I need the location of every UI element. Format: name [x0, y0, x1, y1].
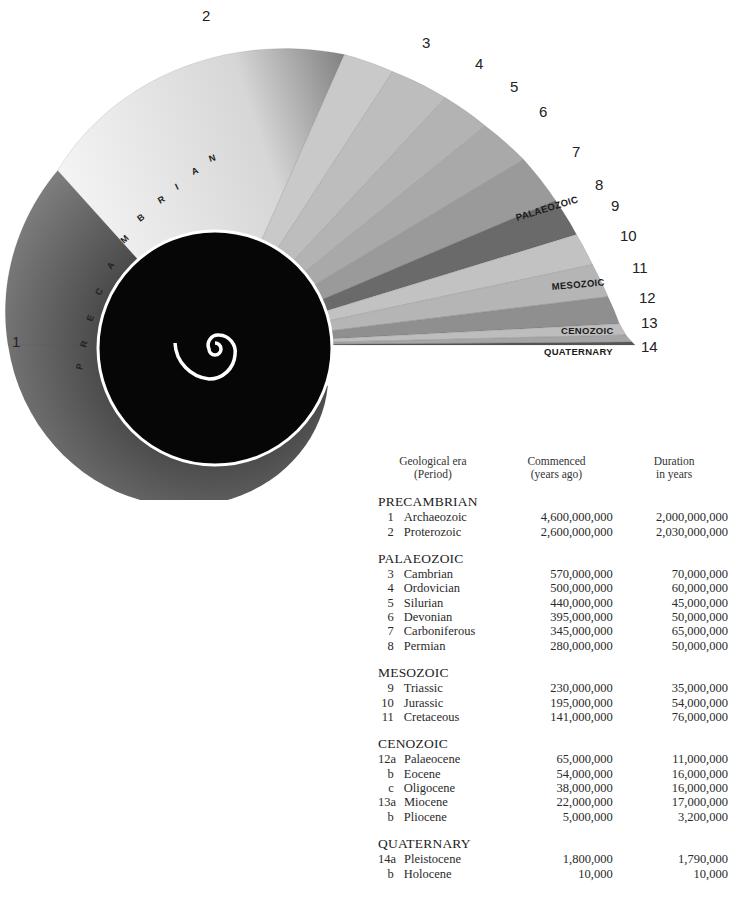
header-commenced: Commenced: [493, 455, 620, 468]
spiral-core: [98, 231, 332, 465]
period-index: 1: [378, 510, 404, 524]
period-number-12: 12: [639, 289, 656, 306]
table-row: 14aPleistocene1,800,0001,790,000: [378, 852, 728, 866]
table-row: 9Triassic230,000,00035,000,000: [378, 681, 728, 695]
table-row: 6Devonian395,000,00050,000,000: [378, 610, 728, 624]
period-name: Proterozoic: [404, 525, 512, 539]
period-name: Devonian: [404, 610, 512, 624]
commenced-value: 395,000,000: [512, 610, 613, 624]
commenced-value: 2,600,000,000: [512, 525, 613, 539]
era-heading: QUATERNARY: [378, 837, 728, 851]
period-name: Miocene: [404, 795, 512, 809]
duration-value: 1,790,000: [613, 852, 728, 866]
period-index: 10: [378, 696, 404, 710]
duration-value: 60,000,000: [613, 581, 728, 595]
period-name: Carboniferous: [404, 624, 512, 638]
duration-value: 11,000,000: [613, 752, 728, 766]
period-index: 8: [378, 639, 404, 653]
table-row: 3Cambrian570,000,00070,000,000: [378, 567, 728, 581]
table-row: 7Carboniferous345,000,00065,000,000: [378, 624, 728, 638]
era-group: MESOZOIC9Triassic230,000,00035,000,00010…: [378, 666, 728, 724]
header-era: Geological era: [378, 455, 488, 468]
duration-value: 76,000,000: [613, 710, 728, 724]
commenced-value: 38,000,000: [512, 781, 613, 795]
duration-value: 45,000,000: [613, 596, 728, 610]
commenced-value: 195,000,000: [512, 696, 613, 710]
commenced-value: 1,800,000: [512, 852, 612, 866]
commenced-value: 65,000,000: [512, 752, 612, 766]
period-number-6: 6: [539, 103, 547, 120]
geological-spiral-diagram: 1234567891011121314 PRECAMBRIAN PALAEOZO…: [0, 0, 733, 500]
era-heading: PRECAMBRIAN: [378, 495, 728, 509]
table-row: cOligocene38,000,00016,000,000: [378, 781, 728, 795]
commenced-value: 280,000,000: [512, 639, 613, 653]
period-number-2: 2: [202, 7, 210, 24]
period-index: b: [378, 810, 404, 824]
commenced-value: 54,000,000: [512, 767, 613, 781]
duration-value: 50,000,000: [613, 610, 728, 624]
commenced-value: 570,000,000: [512, 567, 613, 581]
table-row: bEocene54,000,00016,000,000: [378, 767, 728, 781]
period-number-14: 14: [641, 338, 658, 355]
period-name: Permian: [404, 639, 512, 653]
period-index: 6: [378, 610, 404, 624]
period-index: 5: [378, 596, 404, 610]
era-group: PRECAMBRIAN1Archaeozoic4,600,000,0002,00…: [378, 495, 728, 539]
table-row: 4Ordovician500,000,00060,000,000: [378, 581, 728, 595]
period-name: Oligocene: [404, 781, 512, 795]
period-name: Ordovician: [404, 581, 512, 595]
header-duration-sub: in years: [620, 468, 728, 481]
quaternary-label: QUATERNARY: [544, 346, 613, 357]
table-row: bPliocene5,000,0003,200,000: [378, 810, 728, 824]
era-heading: CENOZOIC: [378, 737, 728, 751]
period-index: 3: [378, 567, 404, 581]
period-index: 4: [378, 581, 404, 595]
table-row: 2Proterozoic2,600,000,0002,030,000,000: [378, 525, 728, 539]
period-index: 14a: [378, 852, 404, 866]
commenced-value: 230,000,000: [512, 681, 613, 695]
geological-periods-table: Geological era(Period) Commenced(years a…: [378, 455, 728, 894]
duration-value: 10,000: [613, 867, 728, 881]
era-group: QUATERNARY14aPleistocene1,800,0001,790,0…: [378, 837, 728, 881]
duration-value: 54,000,000: [613, 696, 728, 710]
period-number-13: 13: [641, 314, 658, 331]
period-number-10: 10: [620, 227, 637, 244]
period-number-3: 3: [422, 34, 430, 51]
duration-value: 35,000,000: [613, 681, 728, 695]
table-row: 10Jurassic195,000,00054,000,000: [378, 696, 728, 710]
period-index: 12a: [378, 752, 404, 766]
period-name: Triassic: [404, 681, 512, 695]
duration-value: 3,200,000: [613, 810, 728, 824]
period-index: b: [378, 867, 404, 881]
commenced-value: 141,000,000: [512, 710, 613, 724]
period-name: Silurian: [404, 596, 512, 610]
table-row: 13aMiocene22,000,00017,000,000: [378, 795, 728, 809]
table-row: bHolocene10,00010,000: [378, 867, 728, 881]
duration-value: 70,000,000: [613, 567, 728, 581]
table-row: 8Permian280,000,00050,000,000: [378, 639, 728, 653]
commenced-value: 5,000,000: [512, 810, 613, 824]
duration-value: 16,000,000: [613, 781, 728, 795]
period-name: Holocene: [404, 867, 512, 881]
commenced-value: 4,600,000,000: [512, 510, 613, 524]
era-group: PALAEOZOIC3Cambrian570,000,00070,000,000…: [378, 552, 728, 653]
period-number-8: 8: [595, 176, 603, 193]
period-name: Jurassic: [404, 696, 512, 710]
period-index: c: [378, 781, 404, 795]
period-index: 9: [378, 681, 404, 695]
era-heading: PALAEOZOIC: [378, 552, 728, 566]
period-name: Palaeocene: [404, 752, 512, 766]
commenced-value: 440,000,000: [512, 596, 613, 610]
period-index: 11: [378, 710, 404, 724]
commenced-value: 22,000,000: [512, 795, 612, 809]
period-name: Cambrian: [404, 567, 512, 581]
table-row: 5Silurian440,000,00045,000,000: [378, 596, 728, 610]
period-index: 7: [378, 624, 404, 638]
period-name: Cretaceous: [404, 710, 512, 724]
cenozoic-label: CENOZOIC: [561, 325, 614, 336]
table-row: 11Cretaceous141,000,00076,000,000: [378, 710, 728, 724]
commenced-value: 345,000,000: [512, 624, 613, 638]
duration-value: 2,030,000,000: [613, 525, 728, 539]
period-index: 13a: [378, 795, 404, 809]
duration-value: 16,000,000: [613, 767, 728, 781]
